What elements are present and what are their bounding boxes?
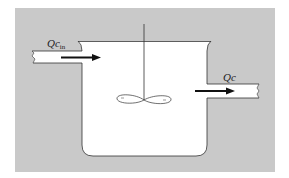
reactor-diagram: Qcin Qc bbox=[0, 0, 289, 178]
outlet-label: Qc bbox=[223, 71, 236, 83]
